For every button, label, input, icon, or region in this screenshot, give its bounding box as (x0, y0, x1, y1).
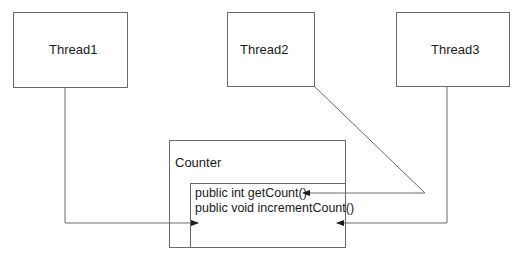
thread2-label: Thread2 (240, 42, 288, 57)
counter-label: Counter (175, 155, 221, 170)
thread3-label: Thread3 (431, 42, 479, 57)
method-incrementcount: public void incrementCount() (195, 201, 354, 216)
thread1-label: Thread1 (49, 42, 97, 57)
method-getcount: public int getCount() (195, 186, 307, 201)
